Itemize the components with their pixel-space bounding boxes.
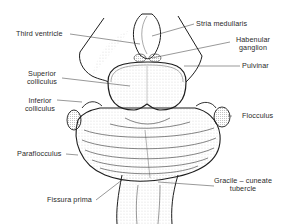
label-gracile-line2: tubercle <box>208 185 278 193</box>
brain-diagram: Third ventricle Stria medullaris Habenul… <box>0 0 290 224</box>
label-inferior-line2: colliculus <box>20 105 60 113</box>
cerebellum <box>76 108 220 181</box>
label-superior-colliculus: Superior colliculus <box>22 70 62 86</box>
label-pulvinar: Pulvinar <box>242 62 269 70</box>
label-flocculus: Flocculus <box>242 112 273 120</box>
label-gracile-cuneate-tubercle: Gracile – cuneate tubercle <box>208 177 278 193</box>
label-inferior-colliculus: Inferior colliculus <box>20 97 60 113</box>
label-paraflocculus: Paraflocculus <box>17 150 61 158</box>
label-superior-line2: colliculus <box>22 78 62 86</box>
label-fissura-prima: Fissura prima <box>47 196 92 204</box>
colliculi <box>108 62 186 110</box>
label-third-ventricle: Third ventricle <box>16 30 63 38</box>
label-habenular-ganglion: Habenular ganglion <box>228 36 278 52</box>
medulla-outline <box>117 175 178 224</box>
label-stria-medullaris: Stria medullaris <box>196 20 247 28</box>
label-habenular-line2: ganglion <box>228 44 278 52</box>
